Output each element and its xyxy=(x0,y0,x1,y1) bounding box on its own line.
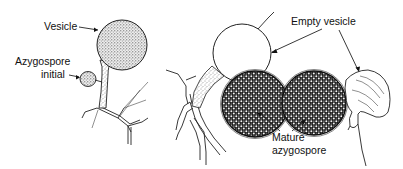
azygospore-diagram: Vesicle Azygospore initial xyxy=(0,0,403,169)
label-azygospore-initial-1: Azygospore xyxy=(15,55,71,67)
arrow-empty-vesicle-right xyxy=(339,30,358,70)
azygospore-initial xyxy=(80,72,96,87)
label-azygospore-initial-2: initial xyxy=(41,68,65,80)
left-panel: Vesicle Azygospore initial xyxy=(15,20,148,145)
empty-vesicle-collapsed xyxy=(345,70,390,128)
mature-azygospore-right xyxy=(282,71,346,135)
arrowhead-vesicle xyxy=(94,28,98,33)
middle-panel xyxy=(166,12,290,165)
hypha-branches-middle xyxy=(166,70,226,165)
hypha-branches xyxy=(82,82,148,145)
label-mature-line1: Mature xyxy=(272,131,305,143)
label-vesicle: Vesicle xyxy=(44,20,77,32)
vesicle-stalk xyxy=(99,60,111,108)
middle-stalk xyxy=(192,66,224,108)
label-mature-line2: azygospore xyxy=(272,144,326,156)
mature-azygospore-middle xyxy=(222,71,288,137)
arrowhead-azygospore-initial xyxy=(76,75,80,80)
label-empty-vesicle: Empty vesicle xyxy=(291,15,356,27)
vesicle xyxy=(97,20,147,70)
arrow-empty-vesicle-middle xyxy=(272,29,322,52)
